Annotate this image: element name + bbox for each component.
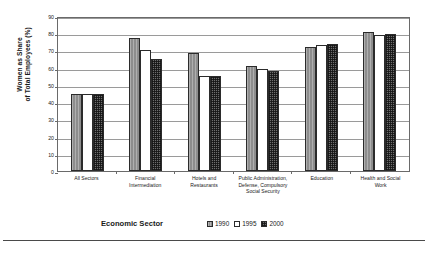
y-axis-tick-label: 80 bbox=[30, 33, 54, 38]
x-axis-tick bbox=[350, 171, 351, 174]
x-axis-tick bbox=[233, 171, 234, 174]
bar-2000 bbox=[151, 59, 162, 171]
bar-1990 bbox=[305, 47, 316, 171]
bar-1995 bbox=[316, 45, 327, 171]
y-axis-tick-label: 40 bbox=[30, 102, 54, 107]
x-axis-title: Economic Sector bbox=[57, 219, 207, 228]
x-axis-category-label: Public Administration, Defense, Compulso… bbox=[233, 175, 292, 195]
legend-label: 1995 bbox=[242, 220, 256, 227]
x-axis-category-label: Financial Intermediation bbox=[116, 175, 175, 195]
bar-2000 bbox=[385, 34, 396, 171]
y-axis-tick-label: 90 bbox=[30, 15, 54, 20]
bar-1990 bbox=[246, 66, 257, 171]
legend-item: 1995 bbox=[234, 220, 256, 227]
bar-1995 bbox=[140, 50, 151, 171]
bar-1995 bbox=[82, 94, 93, 171]
x-axis-category-label: Education bbox=[292, 175, 351, 195]
y-axis-tick-label: 70 bbox=[30, 50, 54, 55]
bar-group bbox=[58, 18, 117, 171]
y-axis-tick-label: 10 bbox=[30, 153, 54, 158]
bar-group bbox=[175, 18, 234, 171]
legend-label: 1990 bbox=[215, 220, 229, 227]
bar-group bbox=[351, 18, 410, 171]
bar-group bbox=[234, 18, 293, 171]
y-axis-tick-label: 0 bbox=[30, 170, 54, 175]
legend-item: 1990 bbox=[207, 220, 229, 227]
y-axis-tick-label: 60 bbox=[30, 67, 54, 72]
plot-area: 0102030405060708090 bbox=[57, 17, 410, 172]
legend-swatch-1995 bbox=[234, 221, 240, 227]
x-axis-category-label: Health and Social Work bbox=[351, 175, 410, 195]
footer-divider bbox=[3, 240, 425, 241]
bar-group bbox=[292, 18, 351, 171]
bar-group bbox=[117, 18, 176, 171]
legend-swatch-1990 bbox=[207, 221, 213, 227]
legend: 199019952000 bbox=[207, 220, 284, 227]
bar-1990 bbox=[188, 53, 199, 171]
y-axis-tick-label: 50 bbox=[30, 84, 54, 89]
y-axis-tick-label: 20 bbox=[30, 136, 54, 141]
x-axis-category-label: Hotels and Restaurants bbox=[175, 175, 234, 195]
bar-groups bbox=[58, 18, 409, 171]
legend-item: 2000 bbox=[261, 220, 283, 227]
bar-chart-figure: Women as Share of Total Employees (%) 01… bbox=[0, 0, 428, 255]
legend-row: Economic Sector 199019952000 bbox=[57, 219, 410, 228]
bar-2000 bbox=[327, 44, 338, 171]
bar-1990 bbox=[129, 38, 140, 171]
bar-1995 bbox=[374, 35, 385, 171]
bar-2000 bbox=[210, 76, 221, 171]
bar-2000 bbox=[268, 71, 279, 171]
y-axis-tick bbox=[55, 173, 58, 174]
x-axis-tick bbox=[174, 171, 175, 174]
x-axis-category-labels: All SectorsFinancial IntermediationHotel… bbox=[57, 175, 410, 195]
bar-1995 bbox=[257, 69, 268, 171]
x-axis-tick bbox=[116, 171, 117, 174]
bar-1995 bbox=[199, 76, 210, 171]
y-axis-tick-label: 30 bbox=[30, 119, 54, 124]
x-axis-category-label: All Sectors bbox=[57, 175, 116, 195]
bar-1990 bbox=[71, 94, 82, 171]
legend-swatch-2000 bbox=[261, 221, 267, 227]
bar-1990 bbox=[363, 32, 374, 171]
x-axis-tick bbox=[291, 171, 292, 174]
bar-2000 bbox=[93, 94, 104, 171]
legend-label: 2000 bbox=[269, 220, 283, 227]
